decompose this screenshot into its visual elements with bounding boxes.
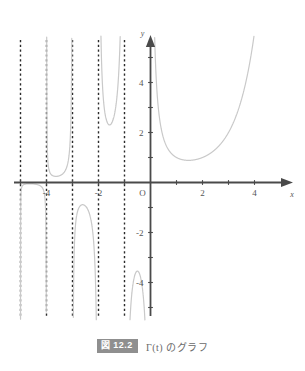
figure-number-tag: 図 12.2 (97, 339, 138, 353)
x-axis-arrowhead (281, 178, 293, 187)
y-tick-label--2: -2 (136, 228, 144, 238)
origin-label: O (139, 188, 146, 198)
asymptote-group (21, 40, 125, 316)
x-axis-label: x (289, 190, 294, 199)
figure-caption: 図 12.2 Γ(t) のグラフ (0, 334, 305, 358)
x-tick-label-2: 2 (200, 188, 205, 198)
curve-branch-positive (155, 36, 254, 160)
y-axis-arrowhead (146, 35, 155, 47)
figure-gamma-function: -4-22442-2-4Oxy 図 12.2 Γ(t) のグラフ (0, 0, 305, 371)
x-tick-label-4: 4 (252, 188, 257, 198)
figure-caption-text: Γ(t) のグラフ (146, 339, 208, 354)
x-tick-label--2: -2 (95, 188, 103, 198)
curve-branch-neg-4-to-neg-3 (47, 37, 72, 176)
axes-group (14, 35, 293, 316)
y-axis-label: y (140, 29, 145, 38)
curve-branch-neg-2-to-neg-1 (101, 36, 120, 125)
y-tick-label--4: -4 (136, 278, 144, 288)
curve-branch-neg-5-to-neg-4 (21, 184, 47, 319)
x-tick-label--4: -4 (43, 188, 51, 198)
plot-area: -4-22442-2-4Oxy (0, 0, 305, 330)
tick-label-group: -4-22442-2-4Oxy (43, 29, 294, 288)
y-tick-label-2: 2 (139, 128, 144, 138)
y-tick-label-4: 4 (139, 78, 144, 88)
curve-branch-neg-3-to-neg-2 (73, 205, 96, 320)
gamma-function-plot: -4-22442-2-4Oxy (0, 0, 305, 330)
